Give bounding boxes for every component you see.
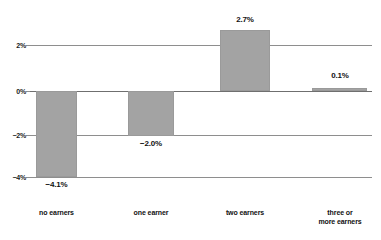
gridline-2pct [30,45,372,46]
bar-no-earners [36,91,77,177]
tick-mark-minus2pct [26,135,30,136]
category-label-line-2: more earners [309,217,371,226]
value-label-two-earners: 2.7% [214,16,276,24]
y-axis-tick-label-2pct: 2% [0,42,26,49]
tick-mark-0pct [26,91,30,92]
value-label-one-earner: −2.0% [120,140,182,148]
y-axis-tick-label-0pct: 0% [0,88,26,95]
bar-three-or-more-earners [312,88,367,91]
y-axis-tick-label-minus4pct: −4% [0,174,26,181]
category-label-one-earner: one earner [120,208,182,217]
bar-chart: 2% 0% −2% −4% −4.1% no earners −2.0% one… [0,0,381,240]
bar-one-earner [128,91,174,136]
bar-two-earners [220,30,270,91]
gridline-zero [30,91,372,92]
category-label-three-or-more-earners: three or more earners [309,208,371,227]
value-label-three-or-more-earners: 0.1% [309,72,371,80]
gridline-minus4pct [30,177,372,178]
gridline-minus2pct [30,135,372,136]
tick-mark-minus4pct [26,177,30,178]
value-label-no-earners: −4.1% [26,181,87,189]
category-label-line-1: three or [309,208,371,217]
category-label-two-earners: two earners [214,208,276,217]
y-axis-tick-label-minus2pct: −2% [0,132,26,139]
tick-mark-2pct [26,45,30,46]
category-label-no-earners: no earners [26,208,87,217]
